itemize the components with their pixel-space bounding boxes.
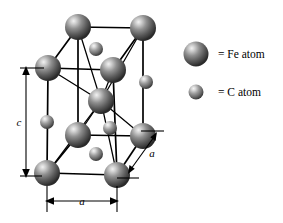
fe-atom-body-center <box>88 88 114 114</box>
fe-atom-top-front-right <box>100 57 126 83</box>
fe-atom-top-back-right <box>130 15 156 41</box>
sphere-small-icon <box>189 85 204 100</box>
dimension-label-a-depth: a <box>149 147 155 159</box>
legend-item-fe: = Fe atom <box>184 42 265 67</box>
martensite-unit-cell-figure: c a a = Fe atom <box>0 0 283 223</box>
fe-atom-bottom-front-left <box>34 160 60 186</box>
fe-atom-top-back-left <box>65 14 91 40</box>
c-atom-bottom-face <box>89 147 103 161</box>
dimension-c: c <box>17 66 44 178</box>
unit-cell-diagram: c a a = Fe atom <box>0 0 283 223</box>
fe-atom-bottom-back-left <box>65 122 91 148</box>
legend-label-c: = C atom <box>218 86 261 98</box>
c-atom-left-edge <box>40 115 54 129</box>
fe-atom-bottom-front-right <box>104 162 130 188</box>
dimension-label-a-width: a <box>79 195 85 207</box>
legend-item-c: = C atom <box>189 85 261 100</box>
sphere-large-icon <box>184 42 209 67</box>
c-atom-top-face <box>89 42 103 56</box>
c-atom-mid-face <box>103 121 117 135</box>
atom-group-back <box>34 14 156 188</box>
legend: = Fe atom = C atom <box>184 42 265 100</box>
legend-label-fe: = Fe atom <box>218 48 265 60</box>
dimension-label-c: c <box>17 116 22 128</box>
c-atom-right-edge <box>139 75 153 89</box>
dimension-a-width: a <box>45 186 119 212</box>
